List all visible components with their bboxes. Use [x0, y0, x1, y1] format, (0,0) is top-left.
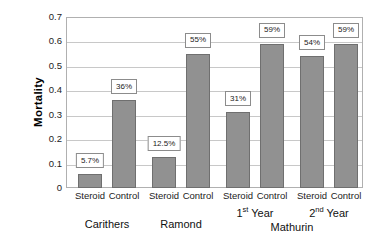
x-axis-tick-label: Control — [320, 191, 372, 201]
bar — [300, 56, 324, 188]
bar — [334, 44, 358, 188]
bar-value-label: 5.7% — [76, 153, 104, 168]
bar-value-label: 36% — [111, 79, 137, 94]
bar-slot: 36% — [112, 17, 136, 188]
bar-value-label: 59% — [333, 23, 359, 38]
y-axis-tick-labels: 0.70.60.50.40.30.20.10 — [20, 17, 62, 188]
bar-slot: 31% — [226, 17, 250, 188]
group-label: Ramond — [131, 218, 231, 231]
y-axis-tick-label: 0 — [22, 183, 62, 193]
y-axis-tick-label: 0.1 — [22, 159, 62, 169]
group-label: 2nd Year — [279, 206, 379, 219]
y-axis-tick-label: 0.3 — [22, 110, 62, 120]
bar — [186, 54, 210, 188]
bar-value-label: 59% — [259, 23, 285, 38]
bar-slot: 12.5% — [152, 17, 176, 188]
bar-slot: 55% — [186, 17, 210, 188]
bar-value-label: 55% — [185, 33, 211, 48]
y-axis-tick-label: 0.5 — [22, 61, 62, 71]
bar-slot: 59% — [260, 17, 284, 188]
group-labels: CarithersRamond1st Year2nd YearMathurin — [66, 206, 363, 239]
y-axis-tick-label: 0.6 — [22, 36, 62, 46]
bar-value-label: 54% — [299, 35, 325, 50]
x-axis-tick-labels: SteroidControlSteroidControlSteroidContr… — [66, 191, 363, 205]
y-axis-tick-label: 0.7 — [22, 12, 62, 22]
y-axis-tick-label: 0.2 — [22, 134, 62, 144]
bar — [260, 44, 284, 188]
bar — [152, 157, 176, 188]
bar-slot: 59% — [334, 17, 358, 188]
y-axis-tick-label: 0.4 — [22, 85, 62, 95]
bar — [112, 100, 136, 188]
bar-value-label: 31% — [225, 91, 251, 106]
bar-slot: 5.7% — [78, 17, 102, 188]
bar-slot: 54% — [300, 17, 324, 188]
bar — [226, 112, 250, 188]
bar — [78, 174, 102, 188]
mortality-bar-chart: Mortality 0.70.60.50.40.30.20.10 5.7%36%… — [0, 0, 379, 239]
bar-value-label: 12.5% — [148, 136, 181, 151]
supergroup-label: Mathurin — [232, 221, 352, 234]
bars-layer: 5.7%36%12.5%55%31%59%54%59% — [66, 17, 363, 188]
